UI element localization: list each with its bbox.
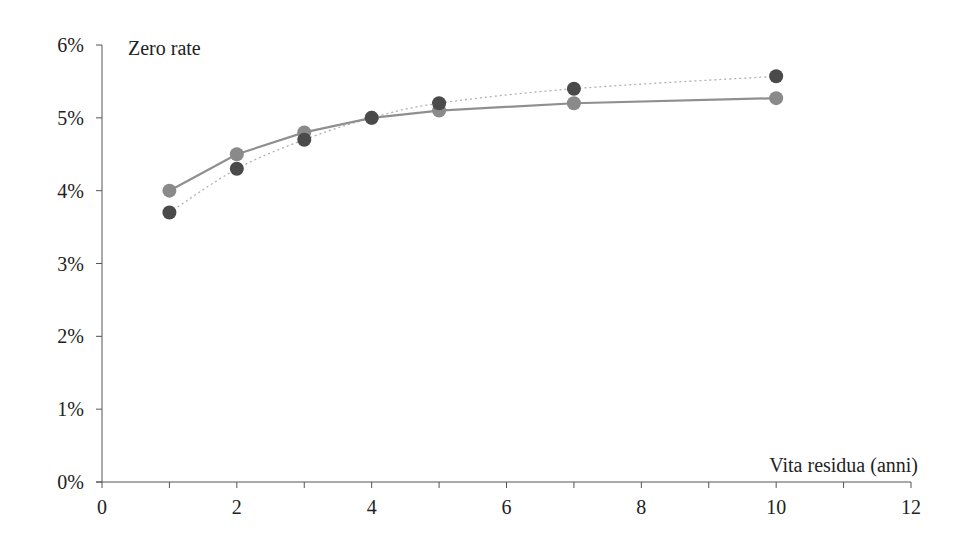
y-tick-label: 3% [57,253,84,275]
data-point-marker [297,133,311,147]
x-tick-label: 0 [97,496,107,518]
series-line-solid [169,98,776,190]
data-point-marker [162,206,176,220]
data-point-marker [567,82,581,96]
data-point-marker [769,91,783,105]
y-tick-label: 1% [57,398,84,420]
x-tick-label: 2 [232,496,242,518]
data-point-marker [230,162,244,176]
y-tick-label: 6% [57,34,84,56]
axes: 0%1%2%3%4%5%6%024681012 [57,34,921,518]
x-tick-label: 8 [636,496,646,518]
y-axis-title: Zero rate [128,37,201,59]
x-tick-label: 4 [367,496,377,518]
series-layer [162,69,783,219]
series-line-dotted [169,76,776,212]
x-tick-label: 12 [901,496,921,518]
data-point-marker [432,96,446,110]
y-tick-label: 5% [57,107,84,129]
data-point-marker [769,69,783,83]
zero-rate-chart: 0%1%2%3%4%5%6%024681012 Zero rate Vita r… [0,0,971,555]
data-point-marker [230,147,244,161]
data-point-marker [162,184,176,198]
y-tick-label: 0% [57,471,84,493]
data-point-marker [567,96,581,110]
y-tick-label: 4% [57,180,84,202]
x-tick-label: 10 [766,496,786,518]
x-axis-title: Vita residua (anni) [769,454,918,477]
x-tick-label: 6 [502,496,512,518]
y-tick-label: 2% [57,325,84,347]
data-point-marker [365,111,379,125]
